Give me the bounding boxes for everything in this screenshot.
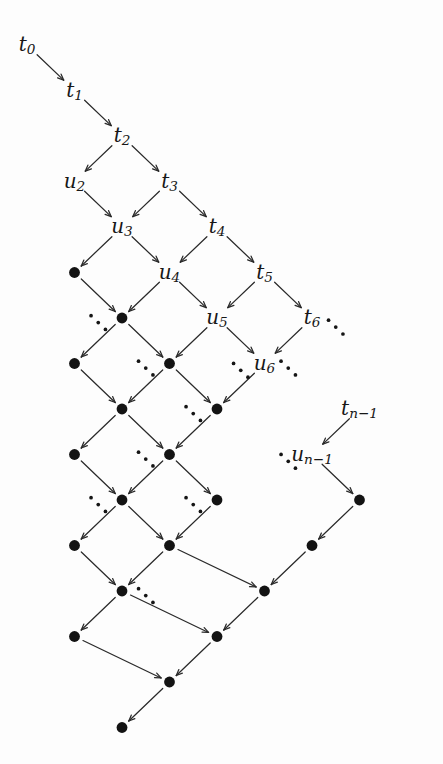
edge-arrow — [176, 370, 210, 403]
edge-arrow — [81, 279, 115, 312]
ellipsis-dots — [327, 318, 345, 336]
edge-arrow — [224, 373, 255, 402]
node-label-u6: u6 — [254, 350, 276, 375]
edge-arrow — [129, 461, 163, 494]
edge-arrow — [129, 416, 163, 449]
node-label-t1: t1 — [66, 77, 83, 102]
edge-arrow — [85, 146, 112, 171]
edge-arrow — [323, 419, 350, 444]
edge-arrow — [129, 552, 163, 585]
edge-arrow — [176, 461, 210, 494]
node-dot — [117, 404, 128, 415]
edge-arrow — [81, 325, 115, 358]
edge-arrow — [176, 643, 210, 676]
edge-arrow — [322, 464, 353, 493]
edge-arrow — [130, 595, 208, 632]
edge-arrow — [319, 507, 353, 540]
edge-arrow — [81, 598, 115, 631]
edge-arrow — [129, 282, 160, 311]
figure-canvas: t0t1t2u2t3u3t4u4t5u5t6u6tn−1un−1 — [0, 0, 443, 764]
node-dot — [354, 495, 365, 506]
edge-arrow — [132, 237, 159, 262]
node-label-t5: t5 — [256, 259, 273, 284]
edge-arrow — [81, 552, 115, 585]
node-dot — [259, 586, 270, 597]
node-dot — [164, 677, 175, 688]
edge-arrow — [133, 191, 160, 216]
node-dot — [69, 449, 80, 460]
edge-arrow — [176, 507, 210, 540]
edge-arrow — [227, 328, 254, 353]
node-dot — [212, 404, 223, 415]
edge-arrow — [271, 552, 305, 585]
edge-arrow — [180, 237, 207, 262]
ellipsis-dots — [279, 359, 297, 377]
edge-arrow — [275, 328, 302, 353]
ellipsis-dots — [184, 496, 202, 514]
edge-arrow — [83, 641, 161, 678]
node-dot — [117, 586, 128, 597]
edge-arrow — [224, 598, 258, 631]
node-label-un1: un−1 — [291, 441, 333, 466]
edge-arrow — [227, 237, 254, 262]
node-dot — [164, 449, 175, 460]
ellipsis-dots — [89, 314, 107, 332]
edge-arrow — [81, 461, 115, 494]
edge-arrow — [81, 237, 112, 266]
edge-arrow — [85, 100, 112, 125]
node-dot — [69, 358, 80, 369]
node-label-t3: t3 — [161, 168, 178, 193]
edge-arrow — [129, 370, 163, 403]
node-dot — [164, 358, 175, 369]
node-dot — [69, 267, 80, 278]
edge-arrow — [275, 282, 302, 307]
edge-arrow — [132, 146, 159, 171]
edge-arrow — [129, 507, 163, 540]
edge-arrow — [81, 370, 115, 403]
edge-arrow — [129, 689, 163, 722]
node-label-t0: t0 — [19, 32, 36, 57]
node-dot — [212, 631, 223, 642]
ellipsis-dots — [89, 496, 107, 514]
edge-arrow — [180, 282, 207, 307]
ellipsis-dots — [232, 362, 250, 379]
node-dot — [212, 495, 223, 506]
edge-arrow — [129, 325, 163, 358]
edge-arrow — [178, 550, 256, 587]
node-label-t6: t6 — [304, 305, 321, 330]
node-dot — [69, 631, 80, 642]
node-dot — [117, 313, 128, 324]
node-dot — [69, 540, 80, 551]
edge-arrow — [228, 282, 255, 307]
node-label-t4: t4 — [209, 214, 226, 239]
edge-arrow — [81, 507, 115, 540]
node-label-u5: u5 — [206, 305, 228, 330]
ellipsis-dots — [184, 405, 202, 423]
edge-arrow — [85, 191, 112, 216]
node-label-u2: u2 — [64, 168, 86, 193]
node-dot — [164, 540, 175, 551]
node-dot — [117, 495, 128, 506]
node-dot — [307, 540, 318, 551]
node-label-u3: u3 — [111, 214, 133, 239]
edge-arrow — [176, 416, 210, 449]
edge-arrow — [81, 416, 115, 449]
node-label-t2: t2 — [114, 123, 131, 148]
node-label-u4: u4 — [159, 259, 181, 284]
node-dot — [117, 722, 128, 733]
edge-arrow — [180, 191, 207, 216]
edge-arrow — [37, 55, 64, 80]
ellipsis-dots — [137, 587, 155, 605]
edge-layer — [37, 55, 353, 721]
lattice-diagram: t0t1t2u2t3u3t4u4t5u5t6u6tn−1un−1 — [0, 0, 443, 764]
node-label-tn1: tn−1 — [341, 396, 378, 421]
ellipsis-dots — [137, 359, 155, 377]
ellipsis-dots — [137, 450, 155, 468]
edge-arrow — [176, 328, 207, 357]
